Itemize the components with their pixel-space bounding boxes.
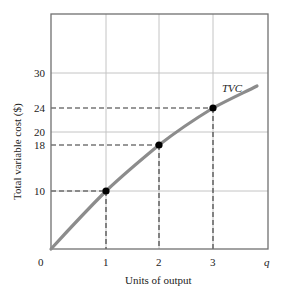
- y-tick-10: 10: [34, 185, 46, 197]
- tvc-label: TVC: [222, 82, 243, 94]
- tvc-curve: [51, 86, 257, 249]
- x-tick-3: 3: [210, 256, 216, 268]
- x-axis-title: Units of output: [125, 274, 192, 286]
- point-q2: [155, 141, 162, 148]
- y-tick-30: 30: [34, 67, 46, 79]
- x-axis-q-label: q: [264, 256, 270, 268]
- point-q3: [209, 104, 216, 111]
- origin-label: 0: [38, 256, 44, 268]
- x-tick-2: 2: [156, 256, 162, 268]
- y-tick-20: 20: [34, 126, 46, 138]
- y-tick-24: 24: [34, 102, 46, 114]
- y-axis-title: Total variable cost ($): [11, 103, 24, 200]
- tvc-chart: TVC 30 24 20 18 10 0 1 2 3 q Units of ou…: [0, 0, 283, 303]
- point-q1: [102, 187, 109, 194]
- y-tick-18: 18: [34, 139, 46, 151]
- x-tick-1: 1: [103, 256, 109, 268]
- dashed-guides: [51, 108, 213, 249]
